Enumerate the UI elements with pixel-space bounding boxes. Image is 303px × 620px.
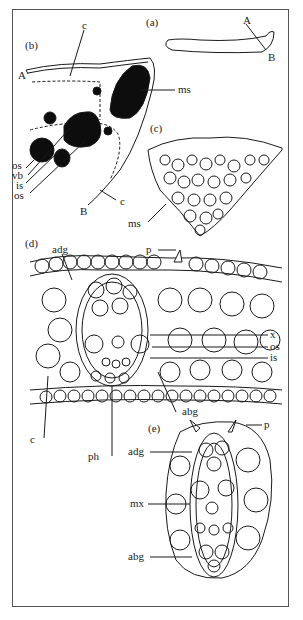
label-e-abg: abg — [128, 551, 144, 562]
label-d-abg: abg — [182, 406, 198, 417]
panel-label-b: (b) — [25, 40, 38, 51]
label-b-c-bottom: c — [120, 196, 125, 207]
label-d-is: is — [270, 352, 277, 363]
label-e-mx: mx — [130, 498, 144, 509]
label-a-B: B — [268, 52, 275, 63]
label-d-p: p — [146, 244, 152, 255]
label-d-adg: adg — [52, 244, 68, 255]
panel-label-e: (e) — [148, 423, 160, 434]
label-d-ph: ph — [88, 451, 99, 462]
label-e-adg: adg — [128, 446, 144, 457]
label-b-A: A — [18, 70, 26, 81]
diagram-drawing — [0, 0, 303, 620]
midrib-section-e — [148, 420, 272, 578]
label-c-ms: ms — [128, 218, 141, 229]
label-d-c: c — [30, 434, 35, 445]
label-a-A: A — [243, 15, 251, 26]
label-b-B: B — [80, 206, 87, 217]
panel-label-c: (c) — [150, 123, 162, 134]
leaf-section-b — [26, 30, 175, 205]
label-b-c-top: c — [82, 20, 87, 31]
label-b-os2: os — [14, 190, 24, 201]
label-e-p: p — [264, 419, 270, 430]
cell-cluster-c — [148, 137, 282, 236]
label-b-ms: ms — [178, 84, 191, 95]
panel-label-d: (d) — [25, 238, 38, 249]
panel-label-a: (a) — [146, 17, 158, 28]
leaf-outline-a — [166, 24, 274, 53]
label-d-x: x — [270, 329, 276, 340]
